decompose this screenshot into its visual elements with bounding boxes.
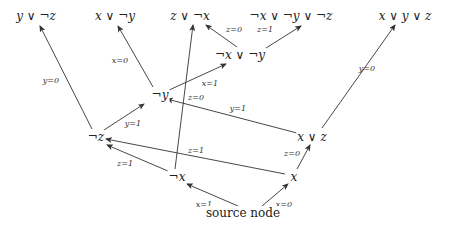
edge-label: y=1: [125, 119, 141, 129]
graph-node-notx-noty: ¬x ∨ ¬y: [214, 48, 266, 62]
edge-label: z=1: [117, 159, 133, 169]
graph-node-x-or-noty: x ∨ ¬y: [94, 9, 136, 23]
graph-node-notx-noty-notz: ¬x ∨ ¬y ∨ ¬z: [249, 9, 334, 23]
edge-arrow: [187, 184, 238, 206]
edge-label: x=1: [202, 79, 218, 89]
edge-label: x=0: [112, 56, 128, 66]
graph-node-notx: ¬x: [168, 170, 187, 184]
edge-label: z=1: [188, 146, 204, 156]
graph-node-x-or-z: x ∨ z: [296, 130, 328, 144]
edge-label: z=0: [188, 93, 204, 103]
edge-label: y=1: [230, 104, 246, 114]
edge-label: z=1: [257, 25, 273, 35]
edge-label: z=0: [284, 149, 300, 159]
graph-node-x-y-z: x ∨ y ∨ z: [378, 9, 433, 23]
edge-arrow: [322, 25, 395, 128]
graph-node-z-or-notx: z ∨ ¬x: [169, 9, 211, 23]
edge-label: z=0: [226, 25, 242, 35]
decision-graph-diagram: x=1x=0z=0z=1z=1y=1y=0y=1y=0x=0x=1z=0z=1z…: [0, 0, 473, 232]
graph-node-source: source node: [205, 206, 281, 220]
edge-label: y=0: [43, 76, 59, 86]
graph-node-noty: ¬y: [151, 88, 170, 102]
graph-node-x: x: [290, 170, 299, 184]
edge-label: y=0: [359, 64, 375, 74]
graph-node-y-or-notz: y ∨ ¬z: [15, 9, 57, 23]
graph-node-notz: ¬z: [87, 130, 105, 144]
